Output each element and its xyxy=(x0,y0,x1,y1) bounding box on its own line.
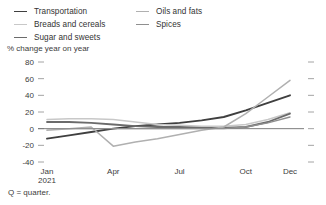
x-tick-label: Jul xyxy=(174,167,184,176)
y-tick-label: 40 xyxy=(25,91,34,100)
x-tick-label: Oct xyxy=(240,167,252,176)
legend-label-transportation: Transportation xyxy=(34,5,87,18)
series-line-oils-and-fats xyxy=(47,80,290,146)
legend-label-breads-and-cereals: Breads and cereals xyxy=(34,18,105,31)
plot-area: 806040200-20-40 xyxy=(0,55,326,167)
legend-label-sugar-and-sweets: Sugar and sweets xyxy=(34,31,100,44)
x-tick-label: Dec xyxy=(283,167,297,176)
line-chart-svg: 806040200-20-40 xyxy=(0,55,326,167)
y-tick-label: 60 xyxy=(25,75,34,84)
y-tick-label: 20 xyxy=(25,108,34,117)
chart-legend: Transportation Breads and cereals Sugar … xyxy=(14,5,314,44)
y-tick-label: 0 xyxy=(30,125,35,134)
x-tick-label: Apr xyxy=(107,167,119,176)
legend-item-breads-and-cereals: Breads and cereals xyxy=(14,18,136,31)
legend-column-2: Oils and fats Spices xyxy=(136,5,296,44)
chart-root: Transportation Breads and cereals Sugar … xyxy=(0,0,326,205)
legend-swatch-transportation xyxy=(14,11,27,12)
legend-column-1: Transportation Breads and cereals Sugar … xyxy=(14,5,136,44)
x-tick-year-label: 2021 xyxy=(38,176,56,185)
series-line-transportation xyxy=(47,95,290,138)
legend-item-sugar-and-sweets: Sugar and sweets xyxy=(14,31,136,44)
y-tick-label: 80 xyxy=(25,58,34,67)
legend-item-oils-and-fats: Oils and fats xyxy=(136,5,296,18)
y-axis-unit-label: % change year on year xyxy=(7,44,89,53)
y-tick-label: -20 xyxy=(22,141,34,150)
series-line-breads-and-cereals xyxy=(47,113,290,126)
legend-item-transportation: Transportation xyxy=(14,5,136,18)
legend-swatch-breads-and-cereals xyxy=(14,24,27,25)
legend-swatch-oils-and-fats xyxy=(136,11,149,12)
legend-label-oils-and-fats: Oils and fats xyxy=(156,5,202,18)
x-axis-labels: Jan2021AprJulOctDec xyxy=(0,167,326,189)
x-tick-label: Jan2021 xyxy=(38,167,56,185)
legend-swatch-sugar-and-sweets xyxy=(14,37,27,38)
legend-label-spices: Spices xyxy=(156,18,181,31)
y-tick-label: -40 xyxy=(22,158,34,167)
chart-footnote: Q = quarter. xyxy=(8,188,50,197)
legend-swatch-spices xyxy=(136,24,149,25)
legend-item-spices: Spices xyxy=(136,18,296,31)
